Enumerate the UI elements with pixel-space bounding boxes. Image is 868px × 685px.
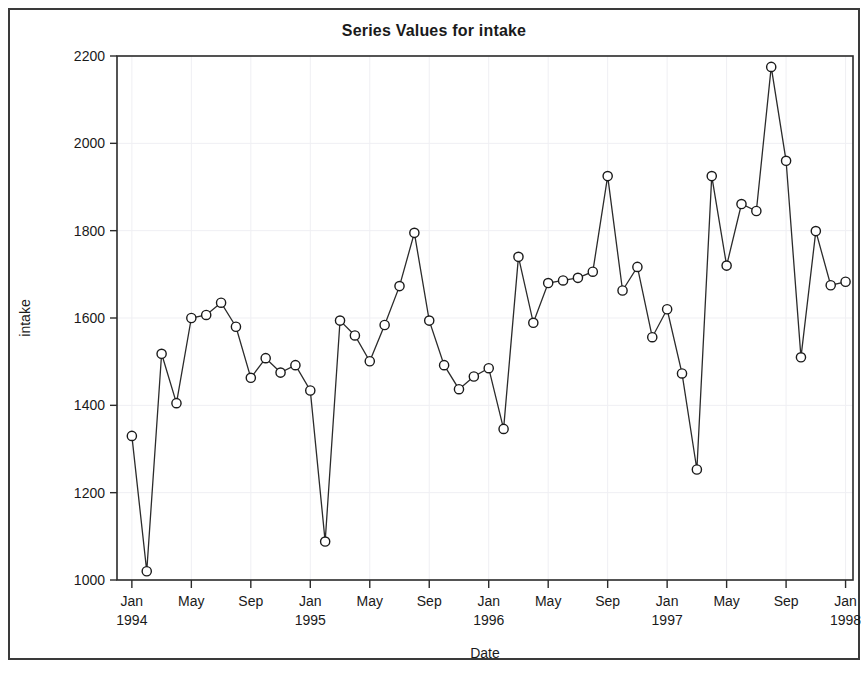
y-axis-tick-label: 1000 xyxy=(74,572,105,588)
x-axis-tick-label-month: Jan xyxy=(121,593,144,609)
data-point-marker[interactable] xyxy=(291,361,300,370)
data-point-marker[interactable] xyxy=(663,305,672,314)
data-point-marker[interactable] xyxy=(767,62,776,71)
data-point-marker[interactable] xyxy=(707,171,716,180)
data-point-marker[interactable] xyxy=(737,199,746,208)
data-point-marker[interactable] xyxy=(202,310,211,319)
x-axis-tick-label-month: May xyxy=(178,593,204,609)
x-axis-tick-label-month: Jan xyxy=(477,593,500,609)
data-point-marker[interactable] xyxy=(127,431,136,440)
data-point-marker[interactable] xyxy=(648,333,657,342)
x-axis-tick-label-month: May xyxy=(713,593,739,609)
data-point-marker[interactable] xyxy=(692,465,701,474)
data-point-marker[interactable] xyxy=(454,385,463,394)
x-axis-tick-label-month: Sep xyxy=(238,593,263,609)
y-axis-tick-label: 2000 xyxy=(74,135,105,151)
x-axis-tick-label-month: May xyxy=(357,593,383,609)
y-axis-tick-label: 1600 xyxy=(74,310,105,326)
x-axis-tick-label-year: 1995 xyxy=(295,612,326,628)
data-point-marker[interactable] xyxy=(321,537,330,546)
data-point-marker[interactable] xyxy=(440,361,449,370)
data-point-marker[interactable] xyxy=(246,373,255,382)
x-axis-title: Date xyxy=(470,645,500,661)
x-axis-tick-label-month: Jan xyxy=(834,593,857,609)
data-point-marker[interactable] xyxy=(618,286,627,295)
data-point-marker[interactable] xyxy=(841,277,850,286)
data-point-marker[interactable] xyxy=(469,372,478,381)
data-point-marker[interactable] xyxy=(781,156,790,165)
data-point-marker[interactable] xyxy=(514,252,523,261)
data-point-marker[interactable] xyxy=(603,171,612,180)
x-axis-tick-label-year: 1996 xyxy=(473,612,504,628)
data-point-marker[interactable] xyxy=(335,316,344,325)
data-point-marker[interactable] xyxy=(231,322,240,331)
data-point-marker[interactable] xyxy=(306,386,315,395)
data-point-marker[interactable] xyxy=(157,349,166,358)
data-point-marker[interactable] xyxy=(395,282,404,291)
x-axis-tick-label-month: May xyxy=(535,593,561,609)
data-point-marker[interactable] xyxy=(811,227,820,236)
x-axis-tick-label-month: Jan xyxy=(656,593,679,609)
data-point-marker[interactable] xyxy=(558,276,567,285)
data-point-marker[interactable] xyxy=(826,281,835,290)
y-axis-tick-label: 1200 xyxy=(74,485,105,501)
data-point-marker[interactable] xyxy=(276,368,285,377)
data-point-marker[interactable] xyxy=(365,357,374,366)
x-axis-tick-label-month: Jan xyxy=(299,593,322,609)
data-point-marker[interactable] xyxy=(187,313,196,322)
x-axis-tick-label-month: Sep xyxy=(774,593,799,609)
data-point-marker[interactable] xyxy=(499,424,508,433)
y-axis-tick-label: 1400 xyxy=(74,397,105,413)
data-point-marker[interactable] xyxy=(484,364,493,373)
data-point-marker[interactable] xyxy=(142,567,151,576)
data-point-marker[interactable] xyxy=(544,278,553,287)
x-axis-tick-label-year: 1994 xyxy=(116,612,147,628)
data-point-marker[interactable] xyxy=(796,353,805,362)
data-point-marker[interactable] xyxy=(633,262,642,271)
x-axis-tick-label-year: 1997 xyxy=(652,612,683,628)
data-point-marker[interactable] xyxy=(216,298,225,307)
data-point-marker[interactable] xyxy=(261,354,270,363)
data-point-marker[interactable] xyxy=(677,369,686,378)
data-point-marker[interactable] xyxy=(350,331,359,340)
x-axis-tick-label-month: Sep xyxy=(417,593,442,609)
y-axis-title: intake xyxy=(17,299,33,337)
data-point-marker[interactable] xyxy=(425,316,434,325)
data-point-marker[interactable] xyxy=(410,228,419,237)
y-axis-tick-label: 1800 xyxy=(74,223,105,239)
data-point-marker[interactable] xyxy=(722,261,731,270)
data-point-marker[interactable] xyxy=(588,267,597,276)
chart-svg: 1000120014001600180020002200Jan1994MaySe… xyxy=(0,0,868,685)
data-point-marker[interactable] xyxy=(529,318,538,327)
data-point-marker[interactable] xyxy=(172,399,181,408)
x-axis-tick-label-year: 1998 xyxy=(830,612,861,628)
data-point-marker[interactable] xyxy=(380,320,389,329)
data-point-marker[interactable] xyxy=(573,273,582,282)
x-axis-tick-label-month: Sep xyxy=(595,593,620,609)
y-axis-tick-label: 2200 xyxy=(74,48,105,64)
chart-plot-area: 1000120014001600180020002200Jan1994MaySe… xyxy=(0,0,868,685)
data-point-marker[interactable] xyxy=(752,206,761,215)
